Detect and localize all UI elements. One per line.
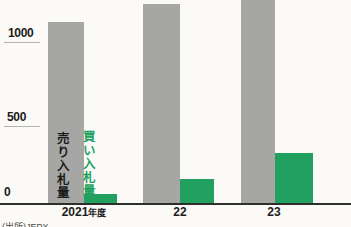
bar-sell-23 <box>241 0 275 204</box>
legend-buy-label: 買い入札量 <box>81 130 94 198</box>
y-tick-line-1000 <box>4 42 40 43</box>
y-tick-label-500: 500 <box>7 111 26 123</box>
x-label-22: 22 <box>160 206 200 219</box>
x-label-2021: 2021年度 <box>42 206 126 219</box>
x-label-2021-year: 2021 <box>62 205 89 219</box>
bar-sell-22 <box>143 4 180 204</box>
y-tick-label-0: 0 <box>4 186 10 198</box>
y-tick-line-500 <box>4 126 40 127</box>
x-label-2021-suffix: 年度 <box>88 208 106 218</box>
legend-sell-label: 売り入札量 <box>55 132 68 200</box>
bar-chart: 1000 500 0 売り入札量 買い入札量 2021年度 22 23 (出所)… <box>0 0 351 227</box>
bar-buy-22 <box>180 179 214 204</box>
y-tick-label-1000: 1000 <box>8 27 34 39</box>
x-label-23: 23 <box>254 206 294 219</box>
source-note: (出所)JEPX <box>2 220 49 227</box>
bar-buy-23 <box>275 153 313 204</box>
